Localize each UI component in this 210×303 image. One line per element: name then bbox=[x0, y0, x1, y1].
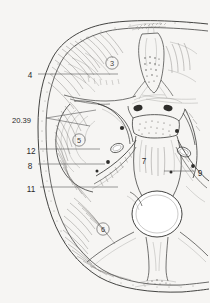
foramen-magnum bbox=[132, 191, 182, 237]
callout-4-label[interactable]: 4 bbox=[28, 71, 33, 80]
region-6-label[interactable]: 6 bbox=[101, 225, 105, 234]
region-7-label[interactable]: 7 bbox=[142, 157, 147, 166]
callout-8-label[interactable]: 8 bbox=[28, 162, 33, 171]
callout-2039-label[interactable]: 20.39 bbox=[12, 116, 31, 125]
foramen-rotundum-right bbox=[175, 129, 179, 133]
cranial-base-figure: 4 20.39 12 8 11 9 3 5 6 7 bbox=[0, 0, 210, 303]
anatomical-illustration: 4 20.39 12 8 11 9 3 5 6 7 bbox=[0, 0, 210, 303]
foramen-rotundum-left bbox=[120, 126, 124, 130]
callout-9-label[interactable]: 9 bbox=[198, 169, 203, 178]
callout-11-label[interactable]: 11 bbox=[27, 185, 36, 194]
region-5-label[interactable]: 5 bbox=[77, 136, 81, 145]
foramen-spinosum-left bbox=[106, 160, 110, 164]
callout-12-label[interactable]: 12 bbox=[26, 147, 36, 156]
region-3-label[interactable]: 3 bbox=[110, 59, 114, 68]
